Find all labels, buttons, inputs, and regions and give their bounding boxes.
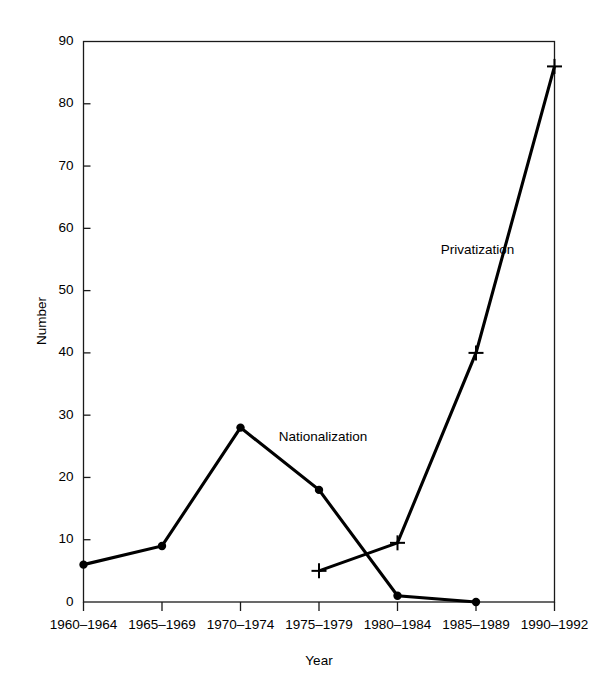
y-tick-label-70: 70 xyxy=(58,158,73,173)
x-tick-label-1: 1965–1969 xyxy=(128,617,196,632)
annotation-privatization: Privatization xyxy=(441,242,515,257)
y-tick-label-50: 50 xyxy=(58,282,73,297)
y-tick-label-0: 0 xyxy=(66,594,74,609)
marker-nationalization-4 xyxy=(393,592,401,600)
marker-nationalization-2 xyxy=(236,423,244,431)
marker-nationalization-5 xyxy=(472,598,480,606)
y-tick-label-60: 60 xyxy=(58,220,73,235)
x-tick-label-4: 1980–1984 xyxy=(364,617,432,632)
x-tick-label-3: 1975–1979 xyxy=(285,617,353,632)
y-tick-label-30: 30 xyxy=(58,407,73,422)
marker-nationalization-0 xyxy=(79,560,87,568)
x-tick-label-0: 1960–1964 xyxy=(50,617,118,632)
x-axis-title: Year xyxy=(305,653,333,668)
marker-nationalization-1 xyxy=(158,542,166,550)
chart-background xyxy=(0,0,615,689)
x-tick-label-5: 1985–1989 xyxy=(442,617,510,632)
y-tick-label-90: 90 xyxy=(58,33,73,48)
y-tick-label-80: 80 xyxy=(58,95,73,110)
annotation-nationalization: Nationalization xyxy=(279,429,368,444)
y-axis-title: Number xyxy=(34,296,49,345)
marker-nationalization-3 xyxy=(315,486,323,494)
chart-figure: 0102030405060708090 1960–19641965–196919… xyxy=(0,0,615,689)
y-tick-label-40: 40 xyxy=(58,344,73,359)
x-tick-label-6: 1990–1992 xyxy=(521,617,589,632)
x-tick-label-2: 1970–1974 xyxy=(207,617,275,632)
y-tick-label-20: 20 xyxy=(58,469,73,484)
x-axis-tick-labels: 1960–19641965–19691970–19741975–19791980… xyxy=(50,617,589,632)
line-chart: 0102030405060708090 1960–19641965–196919… xyxy=(0,0,615,689)
y-tick-label-10: 10 xyxy=(58,531,73,546)
